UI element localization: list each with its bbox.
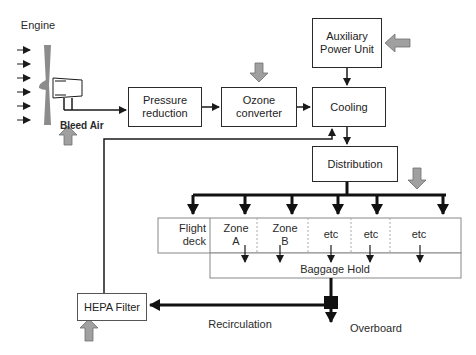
- input-arrow-ozone-icon: [250, 63, 268, 82]
- zone-a: ZoneA: [222, 222, 250, 248]
- bleed-air-label: Bleed Air: [60, 119, 120, 132]
- pressure-reduction-label-2: reduction: [142, 107, 187, 120]
- overboard-label: Overboard: [346, 322, 406, 335]
- input-arrow-apu-icon: [385, 34, 410, 52]
- pressure-reduction-label-1: Pressure: [143, 94, 187, 107]
- hepa-filter-box: HEPA Filter: [77, 293, 147, 321]
- intake-arrows-icon: [17, 50, 30, 120]
- hepa-filter-label: HEPA Filter: [84, 301, 140, 314]
- distribution-box: Distribution: [312, 146, 398, 182]
- engine-core-icon: [53, 78, 82, 110]
- cooling-label: Cooling: [330, 101, 367, 114]
- distribution-manifold: [193, 182, 446, 214]
- recirculation-label: Recirculation: [200, 318, 280, 331]
- apu-label-2: Power Unit: [320, 43, 374, 56]
- outflow-valve-icon: [324, 296, 338, 309]
- apu-label-1: Auxiliary: [326, 30, 368, 43]
- input-arrow-distribution-icon: [408, 168, 426, 189]
- zone-flight-deck: Flightdeck: [170, 222, 206, 248]
- ozone-converter-box: Ozone converter: [221, 87, 297, 127]
- apu-box: Auxiliary Power Unit: [312, 18, 382, 68]
- zone-etc-3: etc: [404, 228, 434, 241]
- input-arrow-hepa-icon: [80, 319, 98, 341]
- engine-fan-icon: [39, 45, 51, 125]
- pressure-reduction-box: Pressure reduction: [128, 87, 202, 127]
- cooling-box: Cooling: [312, 87, 386, 127]
- engine-label: Engine: [18, 19, 58, 32]
- zone-etc-2: etc: [356, 228, 386, 241]
- ozone-converter-label-1: Ozone: [243, 94, 275, 107]
- distribution-label: Distribution: [327, 158, 382, 171]
- baggage-hold-label: Baggage Hold: [290, 263, 380, 276]
- zone-b: ZoneB: [270, 222, 300, 248]
- diagram-canvas: [0, 0, 476, 355]
- zone-etc-1: etc: [316, 228, 346, 241]
- ozone-converter-label-2: converter: [236, 107, 282, 120]
